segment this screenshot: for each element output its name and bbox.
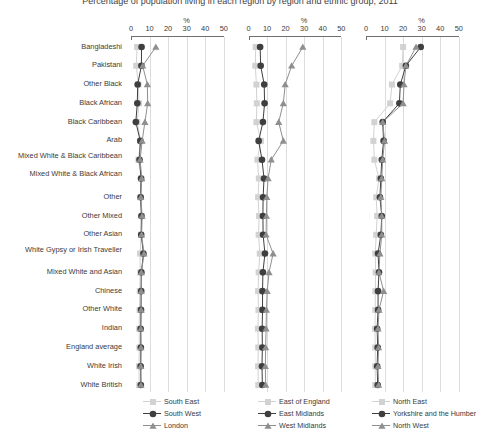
x-tick-label: 0: [242, 24, 256, 33]
data-point-square: [370, 138, 376, 144]
chart-title: Percentage of population living in each …: [0, 0, 480, 7]
legend-label: East Midlands: [279, 409, 324, 418]
legend-item[interactable]: South East: [143, 395, 201, 407]
category-label: Bangladeshi: [0, 43, 122, 51]
category-label: Indian: [0, 324, 122, 332]
data-point-triangle: [265, 269, 272, 275]
data-point-square: [253, 100, 259, 106]
legend-item[interactable]: London: [143, 419, 201, 431]
data-point-triangle: [279, 100, 286, 106]
data-point-circle: [134, 81, 141, 88]
data-point-triangle: [378, 422, 385, 428]
legend-panel-3: North EastYorkshire and the HumberNorth …: [372, 395, 476, 431]
x-tick-label: 10: [378, 24, 392, 33]
data-point-triangle: [275, 119, 282, 125]
x-tick-label: 10: [143, 24, 157, 33]
x-tick-label: 30: [415, 24, 429, 33]
plot-area: [366, 37, 469, 392]
data-point-circle: [261, 100, 268, 107]
data-point-circle: [256, 44, 263, 51]
category-label: Other Mixed: [0, 212, 122, 220]
panel-2: %01020304050: [249, 16, 352, 394]
data-point-circle: [379, 411, 386, 418]
x-tick-label: 40: [198, 24, 212, 33]
data-point-circle: [258, 156, 265, 163]
data-point-triangle: [144, 100, 151, 106]
data-point-triangle: [281, 81, 288, 87]
legend-label: East of England: [279, 397, 330, 406]
legend-marker-circle-icon: [258, 408, 276, 418]
legend-marker-triangle-icon: [258, 420, 276, 430]
legend-marker-square-icon: [258, 396, 276, 406]
data-point-triangle: [264, 422, 271, 428]
x-tick-label: 30: [297, 24, 311, 33]
legend-label: West Midlands: [279, 421, 326, 430]
legend-marker-triangle-icon: [372, 420, 390, 430]
legend-marker-square-icon: [372, 396, 390, 406]
data-point-square: [371, 119, 377, 125]
legend-item[interactable]: North East: [372, 395, 476, 407]
data-point-square: [371, 157, 377, 163]
category-label: Mixed White & Black African: [0, 170, 122, 178]
x-tick-label: 0: [124, 24, 138, 33]
data-point-triangle: [269, 250, 276, 256]
legend-item[interactable]: Yorkshire and the Humber: [372, 407, 476, 419]
data-point-square: [265, 399, 271, 405]
data-point-circle: [255, 138, 262, 145]
legend-item[interactable]: East Midlands: [258, 407, 330, 419]
legend-label: North West: [393, 421, 429, 430]
data-point-circle: [260, 81, 267, 88]
x-tick-label: 50: [452, 24, 466, 33]
data-point-circle: [133, 119, 140, 126]
plot-area: [249, 37, 352, 392]
x-tick-label: 20: [279, 24, 293, 33]
legend-item[interactable]: West Midlands: [258, 419, 330, 431]
x-tick-label: 40: [316, 24, 330, 33]
legend-label: South East: [164, 397, 199, 406]
category-label: Arab: [0, 136, 122, 144]
x-tick-label: 40: [433, 24, 447, 33]
data-point-triangle: [141, 119, 148, 125]
data-point-circle: [150, 411, 157, 418]
category-label: Black Caribbean: [0, 118, 122, 126]
x-tick-label: 0: [359, 24, 373, 33]
x-tick-label: 20: [161, 24, 175, 33]
data-point-square: [150, 399, 156, 405]
data-point-square: [400, 44, 406, 50]
legend-label: Yorkshire and the Humber: [393, 409, 476, 418]
data-point-triangle: [152, 43, 159, 49]
data-point-circle: [134, 100, 141, 107]
x-tick-label: 50: [217, 24, 231, 33]
data-point-triangle: [279, 137, 286, 143]
legend-marker-circle-icon: [143, 408, 161, 418]
data-point-triangle: [149, 422, 156, 428]
category-label: England average: [0, 343, 122, 351]
category-label: Other: [0, 193, 122, 201]
legend-item[interactable]: East of England: [258, 395, 330, 407]
legend-label: London: [164, 421, 188, 430]
legend-item[interactable]: North West: [372, 419, 476, 431]
panel-3: %01020304050: [366, 16, 469, 394]
chart-container: Percentage of population living in each …: [0, 0, 480, 433]
data-point-circle: [265, 411, 272, 418]
data-point-circle: [257, 62, 264, 69]
panel-1: %01020304050: [131, 16, 234, 394]
data-point-triangle: [144, 81, 151, 87]
series-line: [265, 47, 302, 385]
legend-panel-1: South EastSouth WestLondon: [143, 395, 201, 431]
data-point-square: [389, 82, 395, 88]
legend-marker-circle-icon: [372, 408, 390, 418]
category-label: White Irish: [0, 362, 122, 370]
data-point-triangle: [288, 62, 295, 68]
legend-label: North East: [393, 397, 427, 406]
data-point-square: [253, 82, 259, 88]
x-tick-label: 10: [260, 24, 274, 33]
data-point-square: [253, 119, 259, 125]
category-axis-labels: BangladeshiPakistaniOther BlackBlack Afr…: [0, 36, 126, 392]
data-point-triangle: [299, 43, 306, 49]
category-label: White British: [0, 381, 122, 389]
legend-panel-2: East of EnglandEast MidlandsWest Midland…: [258, 395, 330, 431]
category-label: Chinese: [0, 287, 122, 295]
category-label: Other Black: [0, 80, 122, 88]
legend-item[interactable]: South West: [143, 407, 201, 419]
